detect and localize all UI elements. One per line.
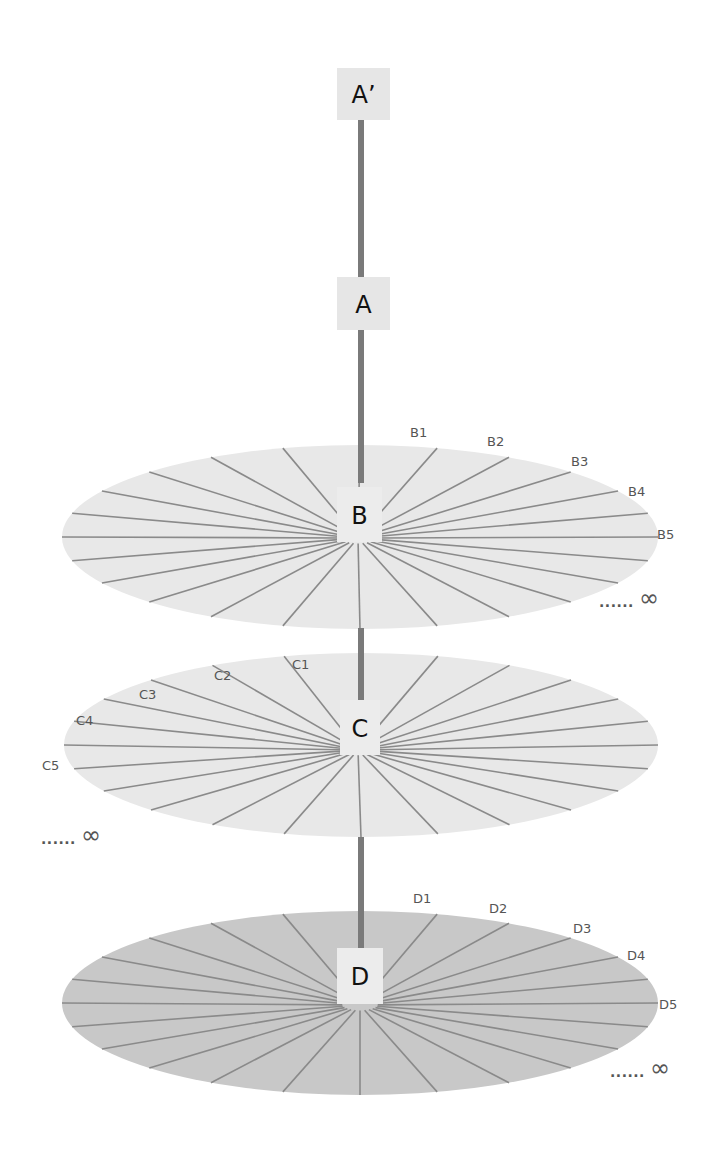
spoke-label-d2: D2: [489, 901, 507, 916]
ellipsis-dots: ......: [610, 1064, 645, 1080]
axis-disc-diagram: A’ABCD B1B2B3B4B5......∞C1C2C3C4C5......…: [0, 0, 723, 1162]
spoke-label-b4: B4: [628, 484, 645, 499]
spoke-label-d4: D4: [627, 948, 645, 963]
node-label: A’: [351, 81, 375, 109]
infinity-icon: ∞: [639, 584, 659, 612]
spoke-label-c4: C4: [76, 713, 93, 728]
spoke-label-b3: B3: [571, 454, 588, 469]
spoke-label-b5: B5: [657, 527, 674, 542]
node-label: D: [351, 963, 369, 991]
infinity-marker-C: ......∞: [41, 821, 101, 849]
infinity-icon: ∞: [81, 821, 101, 849]
infinity-icon: ∞: [650, 1054, 670, 1082]
infinity-marker-D: ......∞: [610, 1054, 670, 1082]
node-label: A: [355, 291, 372, 319]
ellipsis-dots: ......: [599, 594, 634, 610]
node-C: C: [340, 700, 380, 755]
spoke-label-d3: D3: [573, 921, 591, 936]
node-label: C: [352, 715, 369, 743]
infinity-marker-B: ......∞: [599, 584, 659, 612]
disc-B-spoke: [62, 537, 340, 538]
spoke-label-d5: D5: [659, 997, 677, 1012]
node-D: D: [337, 948, 383, 1004]
disc-B-spoke: [376, 537, 658, 538]
spoke-label-b2: B2: [487, 434, 504, 449]
spoke-label-c3: C3: [139, 687, 156, 702]
spoke-label-d1: D1: [413, 891, 431, 906]
node-A: A: [337, 277, 390, 330]
ellipsis-dots: ......: [41, 831, 76, 847]
spoke-label-c2: C2: [214, 668, 231, 683]
spoke-label-c5: C5: [42, 758, 59, 773]
node-label: B: [351, 502, 367, 530]
node-B: B: [337, 487, 382, 542]
spoke-label-b1: B1: [410, 425, 427, 440]
spoke-label-c1: C1: [292, 657, 309, 672]
node-A-prime: A’: [337, 68, 390, 120]
